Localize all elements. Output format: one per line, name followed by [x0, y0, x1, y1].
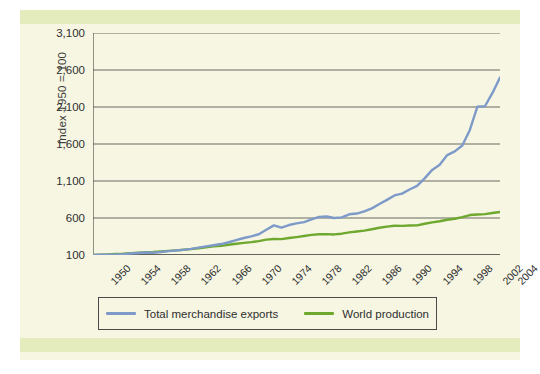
legend-swatch-line-icon — [106, 312, 136, 315]
chart-svg — [93, 33, 500, 255]
x-axis-tick-label: 1994 — [439, 262, 464, 287]
y-axis-tick-label: 1,100 — [39, 175, 85, 187]
y-axis-tick-label: 2,100 — [39, 101, 85, 113]
x-axis-tick-label: 1990 — [409, 262, 434, 287]
legend-item-world-production: World production — [304, 308, 429, 320]
x-axis-tick-label: 1970 — [259, 262, 284, 287]
legend-label: Total merchandise exports — [144, 308, 278, 320]
y-axis-tick-label: 3,100 — [39, 27, 85, 39]
legend-swatch-line-icon — [304, 312, 334, 315]
x-axis-tick-label: 1982 — [349, 262, 374, 287]
y-axis-tick-label: 2,600 — [39, 64, 85, 76]
x-axis-tick-label: 1998 — [470, 262, 495, 287]
x-axis-tick-label: 1958 — [168, 262, 193, 287]
y-axis-tick-label: 100 — [39, 249, 85, 261]
x-axis-tick-label: 1986 — [379, 262, 404, 287]
x-axis-tick-label: 1974 — [289, 262, 314, 287]
chart-legend: Total merchandise exports World producti… — [98, 297, 437, 330]
plot-area — [93, 33, 500, 255]
x-axis-tick-label: 1954 — [138, 262, 163, 287]
legend-item-total-merchandise-exports: Total merchandise exports — [106, 308, 278, 320]
y-axis-tick-label: 600 — [39, 212, 85, 224]
x-axis-tick-label: 1966 — [228, 262, 253, 287]
decorative-band-bottom — [20, 338, 520, 352]
x-axis-tick-label: 1950 — [108, 262, 133, 287]
decorative-band-top — [20, 10, 520, 24]
legend-label: World production — [342, 308, 429, 320]
series-line-total-merchandise-exports — [93, 77, 500, 255]
y-axis-tick-labels: 1006001,1001,6002,1002,6003,100 — [33, 33, 85, 255]
x-axis-tick-label: 1962 — [198, 262, 223, 287]
y-axis-tick-label: 1,600 — [39, 138, 85, 150]
x-axis-tick-label: 1978 — [319, 262, 344, 287]
